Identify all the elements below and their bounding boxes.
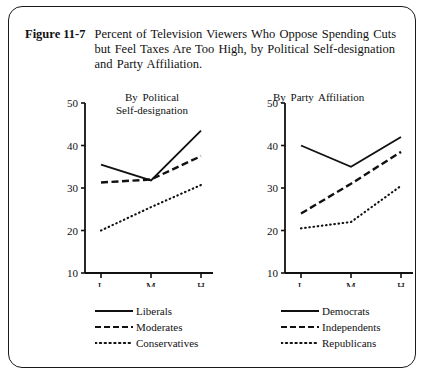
svg-text:50: 50: [267, 97, 279, 109]
legend-label: Independents: [322, 319, 381, 335]
legend-line-sample-dotted: [95, 338, 133, 348]
legend-label: Democrats: [322, 303, 370, 319]
legend-line-sample-solid: [95, 306, 133, 316]
legend-item: Liberals: [95, 303, 198, 319]
legend-line-sample-dashed: [95, 322, 133, 332]
chart-panel-party-affiliation: By Party Affiliation 1020304050LMH: [245, 87, 420, 287]
svg-text:20: 20: [267, 225, 279, 237]
svg-text:30: 30: [67, 182, 79, 194]
svg-text:H: H: [397, 280, 405, 287]
legend-left: Liberals Moderates Conservatives: [95, 303, 198, 351]
legend-item: Independents: [281, 319, 381, 335]
svg-text:10: 10: [267, 267, 279, 279]
series-line-liberals: [101, 131, 201, 181]
line-chart-right: 1020304050LMH: [245, 87, 420, 287]
figure-frame: Figure 11-7 Percent of Television Viewer…: [8, 6, 416, 368]
legend-line-sample-dashed: [281, 322, 319, 332]
legend-item: Conservatives: [95, 335, 198, 351]
legend-label: Liberals: [136, 303, 172, 319]
series-line-independents: [301, 152, 401, 214]
legend-label: Moderates: [136, 319, 182, 335]
svg-text:40: 40: [67, 140, 79, 152]
svg-text:H: H: [197, 280, 205, 287]
svg-text:20: 20: [67, 225, 79, 237]
legend-label: Republicans: [322, 335, 376, 351]
svg-text:L: L: [98, 280, 105, 287]
chart-panel-political-self-designation: By Political Self-designation 1020304050…: [45, 87, 220, 287]
legend-label: Conservatives: [136, 335, 198, 351]
legend-item: Republicans: [281, 335, 381, 351]
series-line-conservatives: [101, 185, 201, 230]
legend-right: Democrats Independents Republicans: [281, 303, 381, 351]
svg-text:M: M: [146, 280, 156, 287]
figure-title-text: Percent of Television Viewers Who Oppose…: [95, 27, 397, 72]
figure-number-label: Figure 11-7: [25, 27, 95, 42]
svg-text:30: 30: [267, 182, 279, 194]
svg-text:M: M: [346, 280, 356, 287]
legend-item: Moderates: [95, 319, 198, 335]
legend-line-sample-dotted: [281, 338, 319, 348]
figure-caption: Figure 11-7 Percent of Television Viewer…: [25, 27, 397, 72]
svg-text:10: 10: [67, 267, 79, 279]
svg-text:L: L: [298, 280, 305, 287]
svg-text:40: 40: [267, 140, 279, 152]
line-chart-left: 1020304050LMH: [45, 87, 220, 287]
legend-line-sample-solid: [281, 306, 319, 316]
series-line-republicans: [301, 186, 401, 229]
svg-text:50: 50: [67, 97, 79, 109]
legend-item: Democrats: [281, 303, 381, 319]
